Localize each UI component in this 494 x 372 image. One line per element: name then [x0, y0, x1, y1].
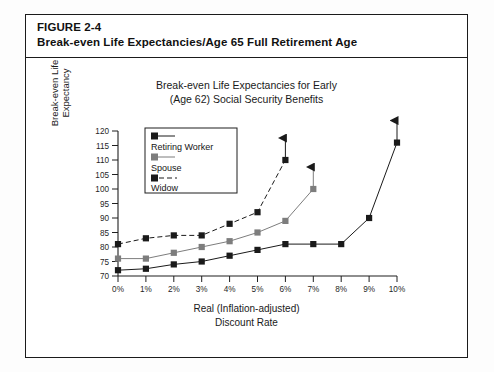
data-point-marker: [254, 229, 260, 235]
data-point-marker: [227, 253, 233, 259]
y-tick-label: 75: [100, 258, 110, 267]
x-tick-label: 10%: [389, 285, 405, 294]
y-tick-label: 110: [96, 156, 109, 165]
plot-area: 120 115 110 105 100 95 90 85 80: [25, 112, 468, 297]
data-point-marker: [227, 221, 233, 227]
data-point-marker: [171, 232, 177, 238]
x-tick-label: 7%: [307, 285, 319, 294]
y-tick-label: 100: [95, 185, 109, 194]
x-tick-label: 5%: [252, 285, 264, 294]
figure-label: FIGURE 2-4: [37, 20, 468, 35]
data-point-marker: [282, 218, 288, 224]
figure-header: FIGURE 2-4 Break-even Life Expectancies/…: [25, 14, 468, 58]
data-point-marker: [171, 261, 177, 267]
legend-marker-gray-square: [151, 154, 158, 161]
x-axis-title-line-1: Real (Inflation-adjusted): [193, 303, 299, 314]
data-point-marker: [115, 267, 121, 273]
legend-label: Widow: [151, 183, 179, 193]
x-tick-label: 1%: [140, 285, 152, 294]
data-point-marker: [254, 247, 260, 253]
data-point-marker: [282, 157, 288, 163]
chart-svg: 120 115 110 105 100 95 90 85 80: [25, 112, 468, 297]
y-tick-label: 80: [100, 243, 110, 252]
data-point-marker: [394, 140, 400, 146]
data-point-marker: [143, 256, 149, 262]
figure-page: FIGURE 2-4 Break-even Life Expectancies/…: [0, 0, 494, 372]
y-tick-label: 115: [96, 142, 109, 151]
data-point-marker: [282, 241, 288, 247]
data-point-marker: [199, 232, 205, 238]
legend-marker-black-square: [151, 133, 158, 140]
chart-legend: Retiring Worker Spouse Widow: [145, 128, 237, 193]
x-axis-title-line-2: Discount Rate: [25, 316, 468, 330]
data-point-marker: [115, 256, 121, 262]
y-tick-label: 70: [100, 272, 110, 281]
data-point-marker: [199, 258, 205, 264]
y-tick-label: 85: [100, 229, 110, 238]
x-tick-label: 0%: [112, 285, 124, 294]
data-point-marker: [310, 241, 316, 247]
x-tick-label: 3%: [196, 285, 208, 294]
data-point-marker: [227, 238, 233, 244]
y-tick-label: 90: [100, 214, 110, 223]
x-tick-label: 4%: [224, 285, 236, 294]
legend-marker-black-square: [151, 175, 158, 182]
y-tick-label: 120: [95, 127, 109, 136]
x-tick-label: 6%: [279, 285, 291, 294]
data-point-marker: [254, 209, 260, 215]
y-tick-label: 95: [100, 200, 110, 209]
data-point-marker: [143, 235, 149, 241]
chart-title: Break-even Life Expectancies for Early (…: [25, 78, 468, 106]
data-point-marker: [143, 266, 149, 272]
x-axis-ticks: 0% 1% 2% 3% 4% 5% 6% 7% 8%: [112, 276, 405, 294]
chart-title-line-2: (Age 62) Social Security Benefits: [25, 92, 468, 106]
data-point-marker: [366, 215, 372, 221]
x-axis-title: Real (Inflation-adjusted) Discount Rate: [25, 302, 468, 330]
figure-caption: Break-even Life Expectancies/Age 65 Full…: [37, 35, 468, 50]
data-point-marker: [310, 186, 316, 192]
data-point-marker: [338, 241, 344, 247]
data-point-marker: [115, 241, 121, 247]
data-point-marker: [199, 244, 205, 250]
y-axis-ticks: 120 115 110 105 100 95 90 85 80: [95, 127, 118, 281]
legend-label: Spouse: [151, 163, 182, 173]
y-tick-label: 105: [95, 171, 109, 180]
x-tick-label: 9%: [363, 285, 375, 294]
x-tick-label: 2%: [168, 285, 180, 294]
x-tick-label: 8%: [335, 285, 347, 294]
data-point-marker: [171, 250, 177, 256]
legend-label: Retiring Worker: [151, 142, 213, 152]
chart-title-line-1: Break-even Life Expectancies for Early: [156, 79, 337, 91]
